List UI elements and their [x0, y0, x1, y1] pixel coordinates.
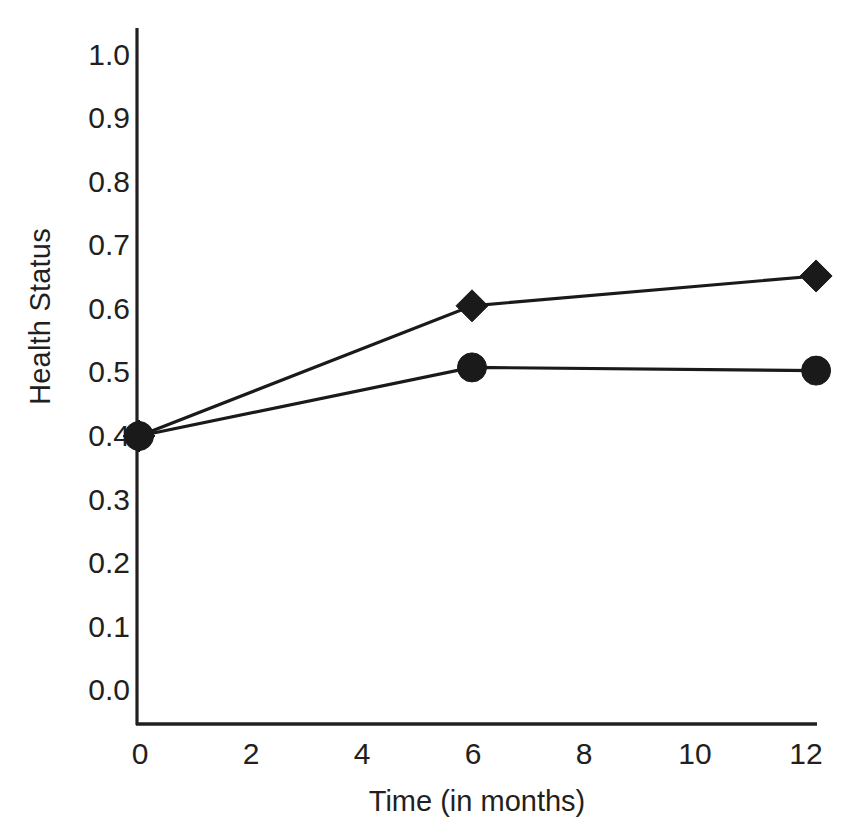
plot-area	[0, 0, 841, 835]
data-point-circle	[458, 353, 487, 382]
data-point-diamond	[800, 260, 832, 292]
data-point-circle	[125, 422, 154, 451]
data-series-layer	[123, 260, 832, 452]
data-point-diamond	[456, 290, 488, 322]
data-point-circle	[802, 356, 831, 385]
chart-figure: Health Status 1.0 0.9 0.8 0.7 0.6 0.5 0.…	[0, 0, 841, 835]
